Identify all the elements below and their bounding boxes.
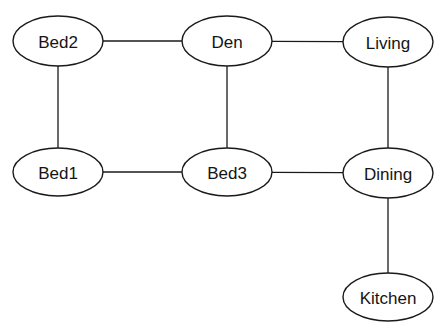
room-adjacency-graph: Bed2DenLivingBed1Bed3DiningKitchen <box>0 0 445 333</box>
node-bed1: Bed1 <box>13 148 103 196</box>
node-label: Bed3 <box>207 164 247 183</box>
node-label: Living <box>366 34 410 53</box>
node-bed2: Bed2 <box>13 16 103 66</box>
node-label: Bed2 <box>38 33 78 52</box>
node-label: Dining <box>364 165 412 184</box>
nodes-layer: Bed2DenLivingBed1Bed3DiningKitchen <box>13 16 433 321</box>
node-dining: Dining <box>343 148 433 198</box>
node-bed3: Bed3 <box>182 148 272 196</box>
graph-canvas: Bed2DenLivingBed1Bed3DiningKitchen <box>0 0 445 333</box>
node-living: Living <box>343 17 433 67</box>
node-label: Bed1 <box>38 164 78 183</box>
node-label: Kitchen <box>360 289 417 308</box>
node-kitchen: Kitchen <box>343 273 433 321</box>
node-den: Den <box>182 16 272 66</box>
node-label: Den <box>211 33 242 52</box>
